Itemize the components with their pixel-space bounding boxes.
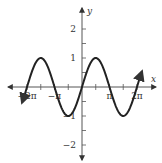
- y-tick-label: 1: [70, 53, 76, 63]
- sine-graph: −2π−ππ2π21−1−2 x y: [0, 0, 162, 163]
- y-axis-label: y: [86, 6, 93, 16]
- x-axis-label: x: [151, 74, 156, 84]
- y-tick-label: 2: [70, 24, 76, 34]
- y-tick-label: −2: [63, 140, 76, 150]
- x-tick-label: −2π: [17, 91, 36, 101]
